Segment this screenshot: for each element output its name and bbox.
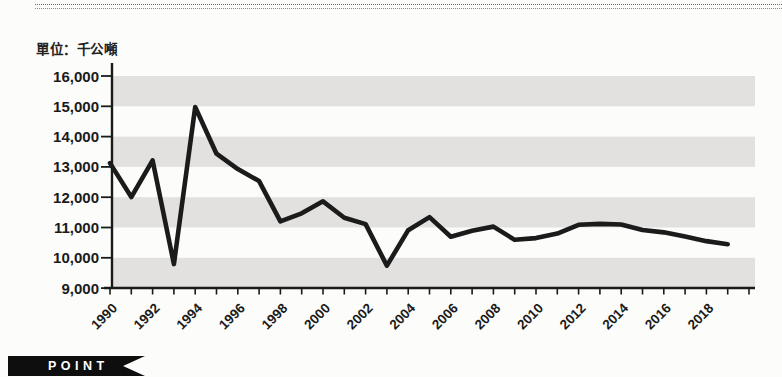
- x-axis-label: 2010: [514, 301, 546, 333]
- grid-band: [112, 258, 755, 288]
- x-axis-label: 2016: [642, 300, 674, 332]
- x-axis-label: 2002: [344, 301, 376, 333]
- rice-production-line-chart: 16,00015,00014,00013,00012,00011,00010,0…: [0, 0, 782, 377]
- y-axis-label: 14,000: [53, 128, 99, 145]
- x-axis-label: 2018: [685, 300, 717, 332]
- data-line: [110, 107, 728, 266]
- x-axis-label: 2014: [599, 300, 631, 332]
- point-label: POINT: [8, 356, 109, 376]
- grid-band: [112, 76, 755, 106]
- y-axis-label: 15,000: [53, 98, 99, 115]
- y-axis-label: 16,000: [53, 68, 99, 85]
- y-axis-label: 10,000: [53, 249, 99, 266]
- y-axis-label: 12,000: [53, 189, 99, 206]
- x-axis-label: 2000: [301, 301, 333, 333]
- y-axis-label: 13,000: [53, 158, 99, 175]
- book-page: 單位：千公噸 16,00015,00014,00013,00012,00011,…: [0, 0, 782, 377]
- y-axis-label: 9,000: [61, 280, 99, 297]
- x-axis-label: 2012: [557, 301, 589, 333]
- x-axis-label: 2006: [429, 300, 461, 332]
- x-axis-label: 1994: [173, 300, 205, 332]
- y-axis-label: 11,000: [54, 219, 99, 236]
- x-axis-label: 2008: [472, 300, 504, 332]
- x-axis-label: 1996: [216, 300, 248, 332]
- x-axis-label: 1990: [88, 301, 120, 333]
- x-axis-label: 1992: [131, 301, 163, 333]
- x-axis-label: 1998: [259, 300, 291, 332]
- x-axis-label: 2004: [386, 300, 418, 332]
